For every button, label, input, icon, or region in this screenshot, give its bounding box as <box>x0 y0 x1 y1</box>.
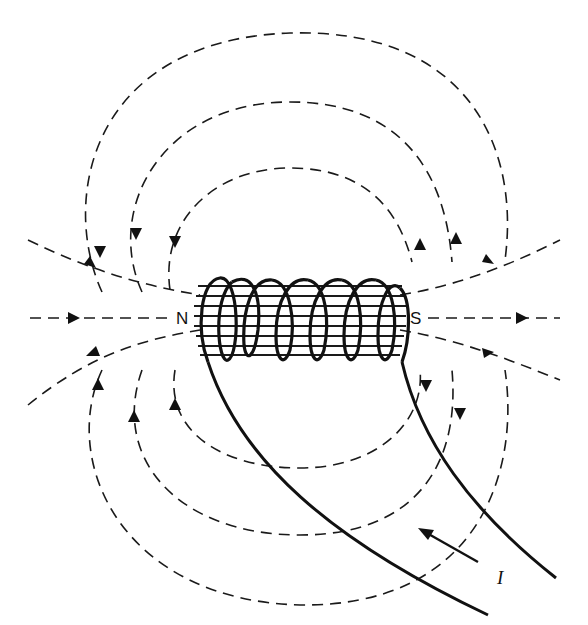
arrow-left-upper <box>84 256 96 268</box>
field-line-bottom-inner <box>174 370 421 468</box>
solenoid-field-diagram: N S I <box>0 0 588 625</box>
field-line-top-inner <box>169 168 412 290</box>
arrow-bottom-middle-left <box>128 410 140 422</box>
field-line-left-upper <box>28 240 200 295</box>
arrow-top-outer-left <box>94 246 106 258</box>
lead-wire-right <box>402 362 556 578</box>
field-line-top-outer <box>86 33 508 292</box>
field-line-right-lower <box>400 330 560 380</box>
arrow-bottom-inner-right <box>420 380 432 392</box>
arrow-axis-left <box>68 312 80 324</box>
field-line-bottom-outer <box>89 370 508 605</box>
arrow-bottom-inner-left <box>169 398 181 410</box>
solenoid-coil <box>201 278 408 362</box>
diagram-svg: N S I <box>0 0 588 625</box>
arrow-top-middle-right <box>450 232 462 244</box>
field-line-bottom-middle <box>134 370 453 535</box>
arrow-right-upper <box>482 254 494 264</box>
arrow-right-lower <box>482 348 494 358</box>
arrow-top-inner-left <box>169 236 181 248</box>
field-line-top-middle <box>131 102 452 292</box>
label-current: I <box>496 567 505 588</box>
field-arrowheads <box>68 228 528 422</box>
lead-wire-left <box>208 362 488 615</box>
current-arrow-head <box>418 528 434 540</box>
arrow-left-lower <box>86 346 100 356</box>
interior-field-lines <box>194 286 406 355</box>
arrow-bottom-middle-right <box>454 408 466 420</box>
label-north: N <box>176 309 188 328</box>
arrow-axis-right <box>516 312 528 324</box>
arrow-bottom-outer-left <box>92 378 104 390</box>
label-south: S <box>410 309 421 328</box>
current-arrow-shaft <box>425 532 478 562</box>
arrow-top-middle-left <box>130 228 142 240</box>
arrow-top-inner-right <box>414 238 426 250</box>
